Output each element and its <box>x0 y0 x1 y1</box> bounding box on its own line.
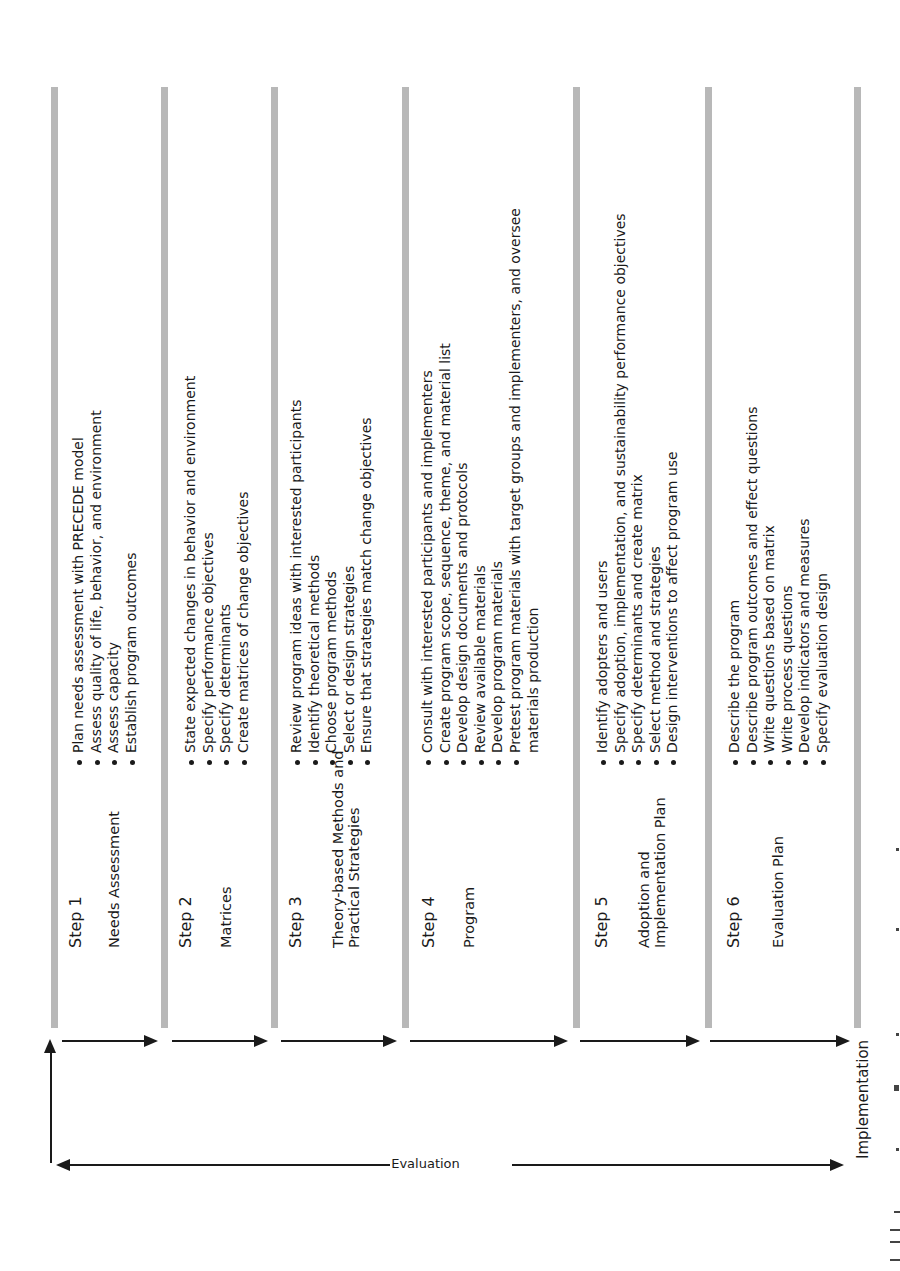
flow-arrow-5-shaft <box>580 1040 688 1042</box>
evaluation-label: Evaluation <box>391 1156 460 1171</box>
task-item: Develop program materials <box>489 208 507 765</box>
evaluation-arrow-head-top <box>56 1159 70 1171</box>
task-item: Consult with interested participants and… <box>419 208 437 765</box>
flow-arrow-4-shaft <box>410 1040 556 1042</box>
task-item: Review available materials <box>472 208 490 765</box>
step-title: Evaluation Plan <box>770 836 786 948</box>
task-item: Specify determinants <box>217 376 235 765</box>
task-item: Select method and strategies <box>647 213 665 765</box>
task-item: Review program ideas with interested par… <box>288 400 306 765</box>
task-item: Create program scope, sequence, theme, a… <box>437 208 455 765</box>
step-number: Step 3 <box>286 896 305 948</box>
task-item: Identify adopters and users <box>594 213 612 765</box>
task-item: Establish program outcomes <box>123 410 141 765</box>
evaluation-arrow-head-bottom <box>830 1159 844 1171</box>
task-list: Consult with interested participants and… <box>419 208 542 765</box>
task-item: Write process questions <box>779 407 797 765</box>
task-item: Identify theoretical methods <box>306 400 324 765</box>
step-6: Step 6 Evaluation Plan Describe the prog… <box>712 87 854 1028</box>
task-item: Assess quality of life, behavior, and en… <box>88 410 106 765</box>
feedback-return-shaft <box>50 1051 52 1163</box>
flow-arrow-1-head <box>144 1035 158 1047</box>
flow-arrow-1-shaft <box>62 1040 146 1042</box>
step-1: Step 1 Needs Assessment Plan needs asses… <box>58 87 161 1028</box>
flow-arrow-2-shaft <box>172 1040 256 1042</box>
task-item: State expected changes in behavior and e… <box>182 376 200 765</box>
step-title: Matrices <box>218 886 234 948</box>
step-number: Step 1 <box>66 896 85 948</box>
task-item: Choose program methods <box>323 400 341 765</box>
task-item: Select or design strategies <box>341 400 359 765</box>
step-number: Step 2 <box>176 896 195 948</box>
divider-bar-4 <box>573 87 580 1028</box>
task-item: Specify performance objectives <box>200 376 218 765</box>
task-item: Develop design documents and protocols <box>454 208 472 765</box>
flow-arrow-6-head <box>836 1035 850 1047</box>
task-list: Review program ideas with interested par… <box>288 400 376 765</box>
flow-arrow-2-head <box>254 1035 268 1047</box>
divider-bar-6 <box>854 87 861 1028</box>
task-item: Describe program outcomes and effect que… <box>744 407 762 765</box>
step-4: Step 4 Program Consult with interested p… <box>409 87 573 1028</box>
flow-arrow-3-head <box>383 1035 397 1047</box>
flow-arrow-6-shaft <box>710 1040 838 1042</box>
task-list: Describe the program Describe program ou… <box>726 407 832 765</box>
divider-bar-0 <box>51 87 58 1028</box>
task-item: Describe the program <box>726 407 744 765</box>
evaluation-arrow-shaft-a <box>68 1164 390 1166</box>
step-2: Step 2 Matrices State expected changes i… <box>168 87 271 1028</box>
task-item: Develop indicators and measures <box>796 407 814 765</box>
flow-arrow-3-shaft <box>281 1040 385 1042</box>
divider-bar-5 <box>705 87 712 1028</box>
flow-arrow-4-head <box>554 1035 568 1047</box>
flow-arrow-5-head <box>686 1035 700 1047</box>
implementation-label: Implementation <box>854 1040 872 1159</box>
step-5: Step 5 Adoption and Implementation Plan … <box>580 87 705 1028</box>
step-title: Needs Assessment <box>106 811 122 948</box>
task-item: Pretest program materials with target gr… <box>507 208 542 765</box>
evaluation-arrow-shaft-b <box>512 1164 832 1166</box>
step-number: Step 6 <box>724 896 743 948</box>
task-item: Write questions based on matrix <box>761 407 779 765</box>
task-list: Identify adopters and users Specify adop… <box>594 213 682 765</box>
divider-bar-2 <box>271 87 278 1028</box>
task-item: Specify evaluation design <box>814 407 832 765</box>
step-number: Step 4 <box>419 896 438 948</box>
divider-bar-1 <box>161 87 168 1028</box>
step-number: Step 5 <box>592 896 611 948</box>
task-item: Plan needs assessment with PRECEDE model <box>70 410 88 765</box>
task-item: Ensure that strategies match change obje… <box>358 400 376 765</box>
step-title: Theory-based Methods and Practical Strat… <box>330 750 362 948</box>
task-item: Create matrices of change objectives <box>235 376 253 765</box>
step-3: Step 3 Theory-based Methods and Practica… <box>278 87 402 1028</box>
task-item: Specify determinants and create matrix <box>629 213 647 765</box>
caption-cutoff <box>888 0 900 1271</box>
feedback-return-head <box>44 1039 56 1053</box>
divider-bar-3 <box>402 87 409 1028</box>
task-item: Specify adoption, implementation, and su… <box>612 213 630 765</box>
task-list: State expected changes in behavior and e… <box>182 376 252 765</box>
task-list: Plan needs assessment with PRECEDE model… <box>70 410 140 765</box>
task-item: Assess capacity <box>105 410 123 765</box>
task-item: Design interventions to affect program u… <box>664 213 682 765</box>
step-title: Program <box>461 887 477 948</box>
step-title: Adoption and Implementation Plan <box>636 797 668 948</box>
intervention-mapping-diagram: Step 1 Needs Assessment Plan needs asses… <box>0 0 900 1271</box>
